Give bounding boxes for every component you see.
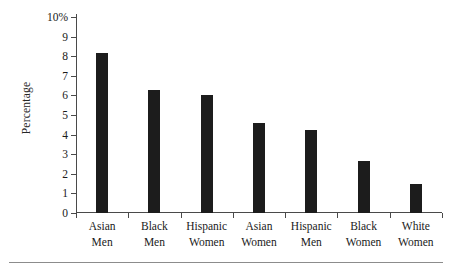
bottom-divider — [9, 262, 443, 263]
y-tick-mark — [71, 193, 76, 194]
y-tick-label: 0 — [62, 205, 68, 221]
y-tick-label: 3 — [62, 146, 68, 162]
y-tick-mark — [71, 56, 76, 57]
x-category-label-line1: Hispanic — [285, 218, 337, 234]
y-tick-mark — [71, 17, 76, 18]
y-axis-title-text: Percentage — [20, 81, 32, 133]
y-tick-label: 1 — [62, 185, 68, 201]
y-tick-label: 9 — [62, 29, 68, 45]
x-category-label-line2: Women — [181, 234, 233, 250]
y-tick-mark — [71, 115, 76, 116]
y-tick-label: 5 — [62, 107, 68, 123]
y-tick-label: 4 — [62, 127, 68, 143]
y-tick-label: 7 — [62, 68, 68, 84]
x-category-label-line1: Black — [337, 218, 389, 234]
y-axis-line — [76, 14, 77, 213]
x-category-label-line2: Men — [285, 234, 337, 250]
y-tick-mark — [71, 95, 76, 96]
x-category-label-line2: Women — [390, 234, 442, 250]
x-category-label-line1: Asian — [233, 218, 285, 234]
bar — [201, 95, 213, 213]
bar-chart-figure: Percentage 012345678910% AsianMenBlackMe… — [0, 0, 458, 274]
x-axis-category-labels: AsianMenBlackMenHispanicWomenAsianWomenH… — [76, 218, 442, 256]
bar — [96, 53, 108, 213]
y-tick-label: 10% — [47, 9, 68, 25]
x-category-label-line2: Men — [128, 234, 180, 250]
bar — [148, 90, 160, 213]
y-tick-label: 2 — [62, 166, 68, 182]
x-category-label: HispanicMen — [285, 218, 337, 250]
x-category-label: AsianWomen — [233, 218, 285, 250]
x-category-label-line1: Black — [128, 218, 180, 234]
x-category-label: WhiteWomen — [390, 218, 442, 250]
x-category-label: BlackMen — [128, 218, 180, 250]
y-tick-mark — [71, 76, 76, 77]
x-category-label-line1: Hispanic — [181, 218, 233, 234]
x-category-label: BlackWomen — [337, 218, 389, 250]
x-category-label: AsianMen — [76, 218, 128, 250]
bar — [358, 161, 370, 213]
y-tick-mark — [71, 135, 76, 136]
bar — [305, 130, 317, 213]
x-category-label-line2: Women — [233, 234, 285, 250]
y-tick-label: 8 — [62, 48, 68, 64]
y-tick-mark — [71, 37, 76, 38]
x-category-label-line1: Asian — [76, 218, 128, 234]
plot-area: 012345678910% — [76, 17, 442, 213]
x-category-label-line1: White — [390, 218, 442, 234]
y-tick-mark — [71, 154, 76, 155]
y-axis-title: Percentage — [6, 0, 46, 215]
x-category-label-line2: Women — [337, 234, 389, 250]
y-tick-label: 6 — [62, 87, 68, 103]
x-category-label-line2: Men — [76, 234, 128, 250]
bar — [410, 184, 422, 213]
y-tick-mark — [71, 174, 76, 175]
bar — [253, 123, 265, 213]
x-tick-mark — [442, 213, 443, 218]
x-category-label: HispanicWomen — [181, 218, 233, 250]
